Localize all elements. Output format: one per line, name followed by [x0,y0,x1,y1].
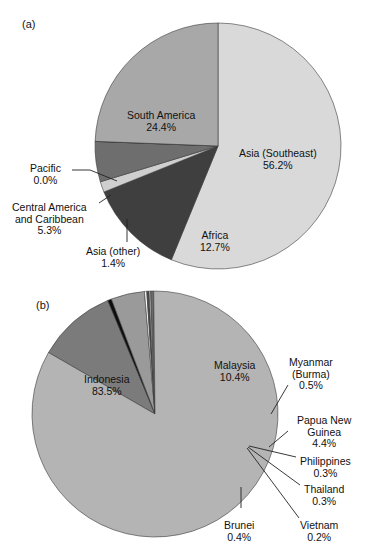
pie-label-line: Pacific [30,163,61,175]
pie-label-line: South America [127,110,195,122]
pie-label-line: Philippines [300,456,351,468]
pie-label-line: Brunei [224,520,254,532]
pie-label-line: Africa [200,230,230,242]
pie-label-line: 0.3% [300,468,351,480]
pie-label-malaysia: Malaysia10.4% [214,360,255,383]
pie-label-line: 5.3% [12,225,87,237]
pie-label-line: 0.3% [304,496,344,508]
pie-chart-panel-a: (a) Asia (Southeast)56.2%South America24… [0,0,371,282]
pie-label-central-america: Central Americaand Caribbean5.3% [12,202,87,237]
pie-label-line: Papua New [297,415,351,427]
pie-label-papua-new-guinea: Papua NewGuinea4.4% [297,415,351,450]
pie-label-line: 4.4% [297,438,351,450]
pie-label-line: Malaysia [214,360,255,372]
pie-label-africa: Africa12.7% [200,230,230,253]
pie-label-line: 0.2% [300,532,338,544]
pie-label-line: Asia (other) [86,246,140,258]
pie-label-line: 12.7% [200,242,230,254]
pie-label-line: Thailand [304,484,344,496]
pie-chart-panel-b: (b) Indonesia83.5%Malaysia10.4%Myanmar(B… [0,282,371,557]
pie-label-brunei: Brunei0.4% [224,520,254,543]
pie-label-asia-other: Asia (other)1.4% [86,246,140,269]
pie-label-line: Indonesia [84,374,130,386]
pie-label-line: Asia (Southeast) [239,148,317,160]
pie-label-pacific: Pacific0.0% [30,163,61,186]
figure-two-pie-charts: (a) Asia (Southeast)56.2%South America24… [0,0,371,557]
pie-label-line: 1.4% [86,258,140,270]
pie-label-line: 56.2% [239,160,317,172]
pie-label-asia-southeast: Asia (Southeast)56.2% [239,148,317,171]
panel-a-svg [0,0,371,282]
pie-label-indonesia: Indonesia83.5% [84,374,130,397]
pie-label-vietnam: Vietnam0.2% [300,520,338,543]
pie-label-line: 24.4% [127,122,195,134]
pie-label-south-america: South America24.4% [127,110,195,133]
pie-label-philippines: Philippines0.3% [300,456,351,479]
pie-label-line: 0.5% [289,380,333,392]
pie-label-myanmar: Myanmar(Burma)0.5% [289,357,333,392]
pie-label-line: 83.5% [84,386,130,398]
pie-label-line: 0.0% [30,175,61,187]
pie-label-line: 10.4% [214,372,255,384]
pie-label-line: Central America [12,202,87,214]
pie-label-line: Vietnam [300,520,338,532]
pie-label-thailand: Thailand0.3% [304,484,344,507]
pie-label-line: Myanmar [289,357,333,369]
pie-label-line: 0.4% [224,532,254,544]
